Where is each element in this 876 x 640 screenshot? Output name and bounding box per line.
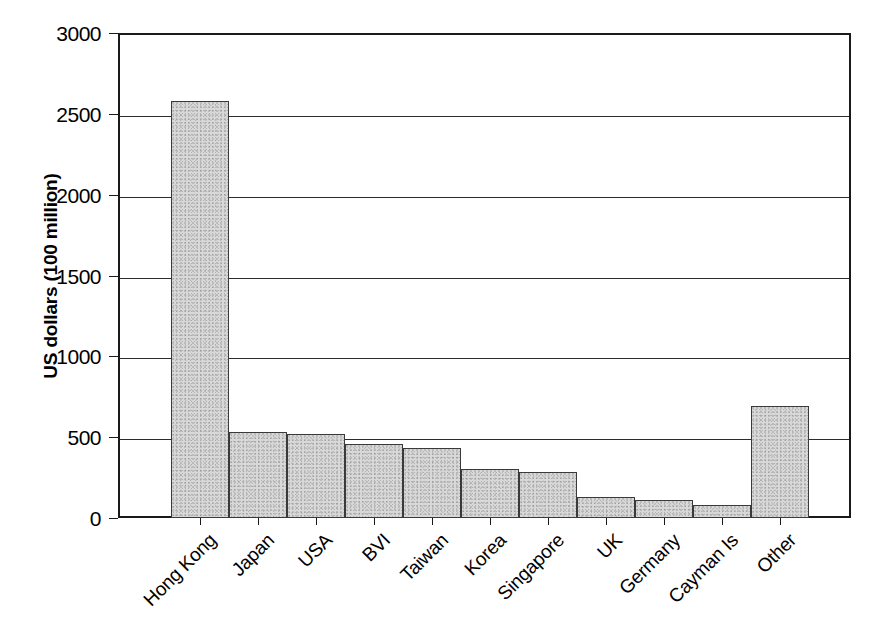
y-axis-tick: [109, 33, 118, 34]
x-axis-tick: [432, 518, 433, 525]
x-axis-label: USA: [295, 530, 336, 571]
x-axis-tick: [490, 518, 491, 525]
bar: [229, 432, 287, 518]
x-axis-tick: [258, 518, 259, 525]
x-axis-label: Hong Kong: [140, 530, 219, 609]
bar: [577, 497, 635, 518]
y-axis-tick: [109, 437, 118, 438]
y-axis-tick-label: 500: [21, 427, 101, 448]
bar: [171, 101, 229, 518]
x-axis-tick: [780, 518, 781, 525]
bar: [287, 434, 345, 518]
bar: [345, 444, 403, 518]
bar: [519, 472, 577, 518]
x-axis-label: Taiwan: [397, 530, 451, 584]
y-axis-tick-label: 0: [21, 508, 101, 529]
gridline: [120, 278, 849, 279]
x-axis-label: BVI: [359, 530, 394, 565]
x-axis-tick: [200, 518, 201, 525]
bar: [461, 469, 519, 518]
gridline: [120, 116, 849, 117]
x-axis-label: UK: [594, 530, 626, 562]
x-axis-tick: [316, 518, 317, 525]
y-axis-tick: [109, 356, 118, 357]
y-axis-tick: [109, 114, 118, 115]
x-axis-tick: [722, 518, 723, 525]
gridline: [120, 197, 849, 198]
x-axis-tick: [664, 518, 665, 525]
y-axis-tick-label: 1000: [21, 346, 101, 367]
y-axis-tick: [109, 195, 118, 196]
x-axis-tick: [548, 518, 549, 525]
y-axis-tick: [109, 518, 118, 519]
x-axis-tick: [374, 518, 375, 525]
x-axis-label: Other: [753, 530, 799, 576]
bar: [693, 505, 751, 518]
bar: [751, 406, 809, 518]
y-axis-tick: [109, 276, 118, 277]
y-axis-tick-label: 3000: [21, 23, 101, 44]
y-axis-tick-label: 1500: [21, 265, 101, 286]
y-axis-tick-label: 2500: [21, 103, 101, 124]
bar-chart: US dollars (100 million) 300025002000150…: [0, 0, 876, 640]
x-axis-label: Japan: [228, 530, 277, 579]
bar: [403, 448, 461, 518]
x-axis-tick: [606, 518, 607, 525]
bar: [635, 500, 693, 518]
y-axis-tick-label: 2000: [21, 184, 101, 205]
gridline: [120, 358, 849, 359]
x-axis-label: Korea: [461, 530, 510, 579]
